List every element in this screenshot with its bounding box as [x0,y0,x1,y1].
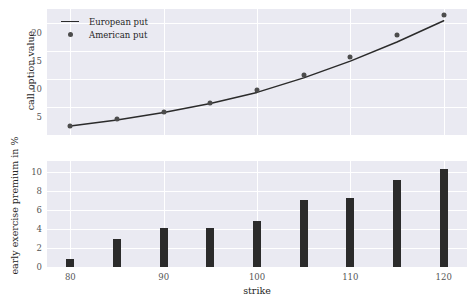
bar-strike-90 [160,228,168,267]
bottom-ytick-8: 8 [37,186,42,196]
american-put-marker [395,33,400,38]
bottom-xtick-100: 100 [249,272,265,282]
figure-canvas: European put American put 5 10 15 20 cal… [0,0,474,308]
bottom-ytick-2: 2 [37,243,42,253]
bar-strike-85 [113,239,121,267]
american-put-marker [301,72,306,77]
top-yaxis-title: call option value [25,11,36,131]
american-put-marker [255,88,260,93]
american-put-marker [115,117,120,122]
gridline-y-0 [47,267,467,268]
top-subplot-plot-area: European put American put [47,9,467,135]
legend: European put American put [57,15,148,41]
american-put-marker [348,54,353,59]
bar-strike-100 [253,221,261,267]
bottom-xtick-90: 90 [158,272,169,282]
legend-label: European put [83,17,148,27]
american-put-marker [68,124,73,129]
bar-strike-105 [300,200,308,267]
bottom-yaxis-title: early exercise premium in % [9,155,20,275]
bar-strike-95 [206,228,214,267]
legend-entry-american-put: American put [57,28,148,41]
bottom-subplot-plot-area [47,161,467,267]
american-put-marker [441,12,446,17]
bar-strike-80 [66,259,74,267]
bottom-xtick-80: 80 [65,272,76,282]
bar-strike-115 [393,180,401,267]
top-ytick-5: 5 [37,112,42,122]
legend-entry-european-put: European put [57,15,148,28]
bottom-ytick-6: 6 [37,205,42,215]
bottom-ytick-10: 10 [31,167,42,177]
gridline-x-80 [70,161,71,267]
bottom-xtick-120: 120 [436,272,452,282]
american-put-marker [208,100,213,105]
bottom-xaxis-title: strike [243,285,271,296]
dot-swatch-icon [57,32,83,37]
bottom-xtick-110: 110 [342,272,358,282]
american-put-marker [161,110,166,115]
legend-label: American put [83,30,147,40]
line-swatch-icon [57,21,83,23]
bottom-ytick-4: 4 [37,224,42,234]
bar-strike-120 [440,169,448,267]
bar-strike-110 [346,198,354,267]
bottom-ytick-0: 0 [37,262,42,272]
